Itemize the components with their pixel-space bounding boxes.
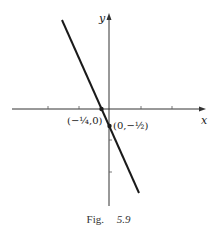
figure-caption: Fig. 5.9 (0, 213, 217, 225)
y-axis-label: y (98, 12, 106, 25)
caption-prefix: Fig. (87, 213, 104, 225)
plotted-line (62, 20, 139, 193)
y-intercept-label: (0,−½) (113, 120, 149, 131)
x-intercept-point (99, 107, 103, 111)
x-axis-arrow-icon (199, 107, 206, 112)
y-intercept-point (107, 124, 111, 128)
x-intercept-label: (−¼,0) (67, 115, 103, 126)
x-axis-label: x (201, 114, 208, 127)
caption-number: 5.9 (117, 213, 131, 225)
y-axis-arrow-icon (107, 13, 112, 20)
figure-canvas: y x (−¼,0) (0,−½) (0, 0, 217, 236)
